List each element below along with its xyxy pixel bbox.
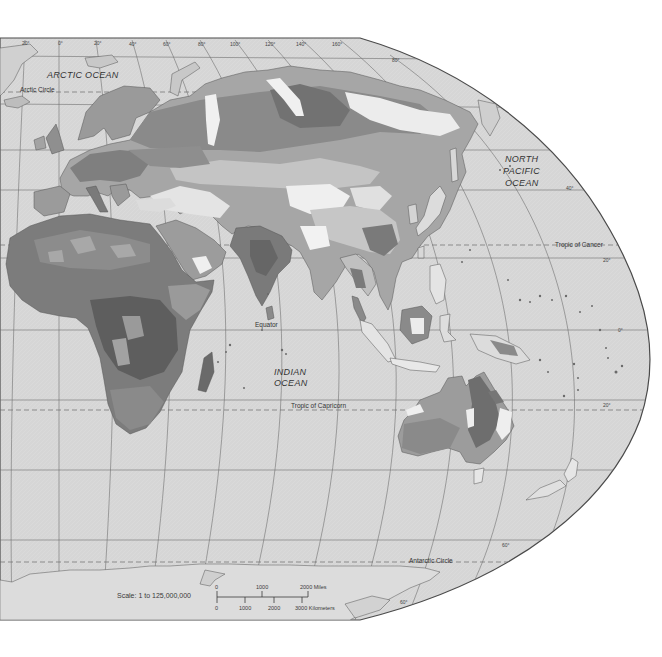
svg-text:20°: 20° bbox=[603, 257, 611, 263]
tropic-of-capricorn-label: Tropic of Capricorn bbox=[291, 402, 346, 410]
svg-text:1000: 1000 bbox=[256, 584, 268, 590]
svg-text:1000: 1000 bbox=[239, 605, 251, 611]
north-pacific-label-3: OCEAN bbox=[505, 178, 539, 188]
north-pacific-label-1: NORTH bbox=[505, 154, 539, 164]
arctic-circle-label: Arctic Circle bbox=[20, 86, 55, 93]
world-map-eastern-hemisphere: 20° 0° 20° 40° 60° 80° 100° 120° 140° 16… bbox=[0, 0, 662, 657]
svg-text:3000 Kilometers: 3000 Kilometers bbox=[295, 605, 335, 611]
svg-text:40°: 40° bbox=[129, 41, 137, 47]
equator-label: Equator bbox=[255, 321, 279, 329]
svg-text:140°: 140° bbox=[296, 41, 306, 47]
svg-text:60°: 60° bbox=[502, 542, 510, 548]
svg-text:2000: 2000 bbox=[268, 605, 280, 611]
svg-text:80°: 80° bbox=[392, 57, 400, 63]
indian-ocean-label-1: INDIAN bbox=[274, 367, 307, 377]
svg-text:2000 Miles: 2000 Miles bbox=[300, 584, 327, 590]
svg-text:120°: 120° bbox=[265, 41, 275, 47]
svg-text:0: 0 bbox=[215, 605, 218, 611]
svg-text:100°: 100° bbox=[230, 41, 240, 47]
svg-text:40°: 40° bbox=[566, 185, 574, 191]
svg-text:80°: 80° bbox=[198, 41, 206, 47]
svg-text:20°: 20° bbox=[603, 402, 611, 408]
antarctic-circle-label: Antarctic Circle bbox=[409, 557, 453, 564]
svg-text:60°: 60° bbox=[400, 599, 408, 605]
svg-text:20°: 20° bbox=[94, 40, 102, 46]
scale-label: Scale: 1 to 125,000,000 bbox=[117, 592, 191, 599]
korea bbox=[408, 204, 418, 224]
svg-text:20°: 20° bbox=[22, 40, 30, 46]
north-pacific-label-2: PACIFIC bbox=[503, 166, 540, 176]
svg-text:0°: 0° bbox=[618, 327, 623, 333]
svg-text:60°: 60° bbox=[163, 41, 171, 47]
tropic-of-cancer-label: Tropic of Cancer bbox=[555, 241, 604, 249]
svg-text:0: 0 bbox=[215, 584, 218, 590]
arctic-ocean-label: ARCTIC OCEAN bbox=[46, 70, 119, 80]
svg-text:0°: 0° bbox=[58, 40, 63, 46]
indian-ocean-label-2: OCEAN bbox=[274, 378, 308, 388]
svg-text:160°: 160° bbox=[332, 41, 342, 47]
